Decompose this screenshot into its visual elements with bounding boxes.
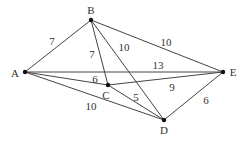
edge-weight-A-D: 10	[86, 101, 97, 112]
edge-weight-A-B: 7	[49, 36, 55, 47]
edge-weight-A-E: 13	[153, 60, 164, 71]
edge-weight-B-C: 7	[89, 49, 95, 60]
edge-weight-B-D: 10	[119, 42, 130, 53]
node-B	[89, 18, 93, 22]
edge-weight-B-E: 10	[161, 37, 172, 48]
edge-weight-C-E: 9	[169, 82, 175, 93]
node-label-D: D	[160, 125, 168, 136]
edge-A-B	[25, 20, 91, 72]
edge-weight-A-C: 6	[92, 74, 98, 85]
edge-weight-D-E: 6	[203, 95, 209, 106]
weighted-graph-diagram: 77101013695106ABCDE	[0, 0, 244, 142]
edge-weight-C-D: 5	[133, 92, 139, 103]
node-E	[221, 70, 225, 74]
node-D	[162, 118, 166, 122]
edge-C-E	[108, 72, 223, 85]
node-C	[106, 83, 110, 87]
node-label-B: B	[87, 5, 94, 16]
node-A	[23, 70, 27, 74]
node-label-C: C	[102, 90, 109, 101]
edge-D-E	[164, 72, 223, 120]
node-label-E: E	[230, 67, 237, 78]
graph-canvas	[0, 0, 244, 142]
node-label-A: A	[11, 68, 19, 79]
